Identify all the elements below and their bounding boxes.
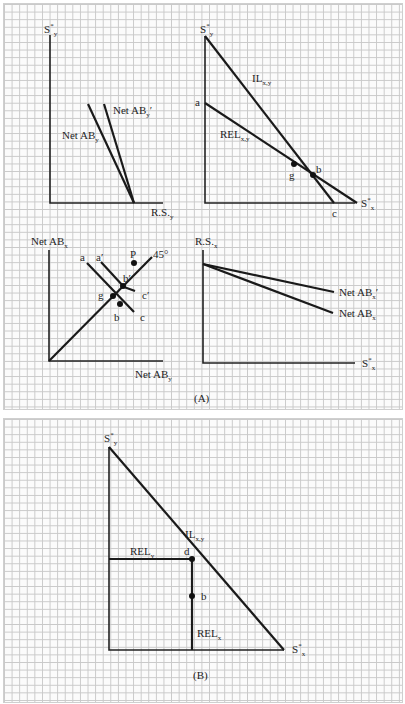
label-net-ab-y: Net ABy (62, 130, 99, 144)
label-point-c-prime: c′ (142, 290, 149, 301)
label-point-b: b (114, 312, 120, 323)
label-45-degree: 45° (153, 249, 168, 260)
label-net-ab-x-prime: Net ABx′ (339, 287, 378, 301)
axis-label-s-star-y: S*y (200, 23, 213, 38)
caption-a: (A) (194, 393, 209, 404)
line-rel-xy (205, 103, 357, 203)
label-point-b: b (201, 591, 207, 602)
chart-bottom-left (49, 250, 163, 361)
axis-label-rs-y: R.S.y (151, 207, 173, 221)
line-a-prime-b-prime (101, 262, 124, 287)
axis-label-s-star-y: S*y (104, 432, 117, 447)
axes-top-right (205, 36, 355, 203)
axis-label-s-star-x: S*x (362, 357, 375, 372)
point-g (110, 293, 116, 299)
axes-bottom-right (203, 250, 355, 363)
label-point-c: c (140, 312, 145, 323)
axis-label-s-star-y: S*y (44, 23, 57, 38)
point-b (189, 593, 195, 599)
point-p (131, 260, 137, 266)
label-il-xy: ILx,y (185, 529, 204, 543)
axis-label-net-ab-y: Net ABy (135, 369, 172, 383)
line-45-degree (49, 257, 152, 361)
chart-bottom-right (203, 250, 355, 363)
label-point-a: a (195, 97, 200, 108)
label-net-ab-y-prime: Net ABy′ (113, 105, 152, 119)
label-point-g: g (98, 290, 104, 301)
label-point-a-prime: a′ (96, 252, 103, 263)
label-rel-y: RELy (130, 546, 154, 560)
line-il-xy (205, 36, 334, 203)
label-point-p: P (130, 249, 136, 260)
axis-label-net-ab-x: Net ABx (31, 236, 68, 250)
axis-label-rs-x: R.S.x (195, 236, 217, 250)
label-point-a: a (80, 252, 85, 263)
label-il-xy: ILx,y (252, 73, 271, 87)
label-point-b-prime: b′ (123, 273, 131, 284)
label-point-c: c (332, 208, 337, 219)
point-b (117, 301, 123, 307)
axis-label-s-star-x: S*x (292, 643, 305, 658)
chart-top-right (205, 36, 357, 203)
label-net-ab-x: Net ABx (339, 308, 376, 322)
label-point-b: b (316, 164, 322, 175)
caption-b: (B) (193, 670, 208, 681)
label-rel-xy: RELx,y (220, 129, 250, 143)
line-b-prime-c-prime (124, 287, 135, 291)
label-rel-x: RELx (197, 628, 221, 642)
point-g (291, 161, 297, 167)
axis-label-s-star-x: S*x (361, 197, 374, 212)
label-point-g: g (289, 170, 295, 181)
label-point-d: d (184, 546, 190, 557)
